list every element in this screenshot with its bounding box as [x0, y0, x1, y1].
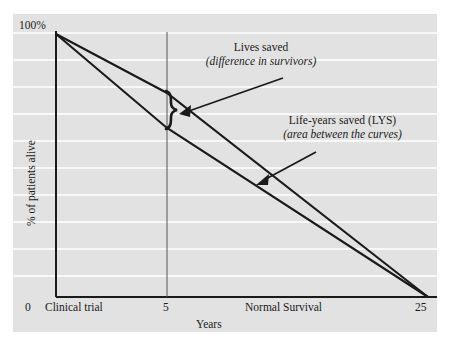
treated-survival-curve	[56, 34, 428, 297]
x-tick-label-0: 0	[25, 301, 31, 313]
y-axis-max-label: 100%	[19, 19, 46, 31]
x-tick-label-25: 25	[415, 301, 427, 313]
annotation-life-years-saved: Life-years saved (LYS) (area between the…	[250, 113, 435, 141]
lys-leader-line	[264, 152, 316, 180]
x-tick-label-5: 5	[163, 301, 169, 313]
x-axis-title: Years	[196, 318, 222, 330]
figure-root: 100% % of patients alive 0 Clinical tria…	[0, 0, 450, 351]
annotation-lives-saved-line1: Lives saved	[234, 41, 289, 53]
y-axis-title: % of patients alive	[25, 123, 37, 243]
annotation-lives-saved-line2: (difference in survivors)	[186, 54, 336, 68]
gridlines	[13, 33, 437, 276]
normal-survival-curve	[56, 34, 428, 297]
lives-saved-brace	[166, 91, 177, 129]
annotation-life-years-saved-line2: (area between the curves)	[250, 127, 435, 141]
lys-arrowhead	[256, 174, 269, 185]
x-region-label-normal-survival: Normal Survival	[245, 301, 322, 313]
annotation-lives-saved: Lives saved (difference in survivors)	[186, 40, 336, 68]
x-region-label-clinical-trial: Clinical trial	[45, 301, 103, 313]
lives-saved-leader-line	[186, 78, 283, 112]
annotation-life-years-saved-line1: Life-years saved (LYS)	[289, 114, 396, 126]
